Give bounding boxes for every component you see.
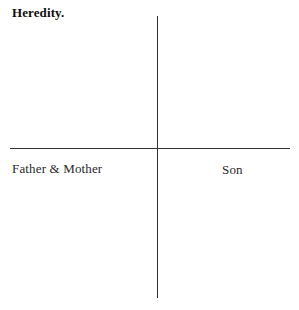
axis-label-father-and-mother: Father & Mother (12, 161, 102, 177)
plot-area (10, 16, 290, 298)
axis-label-son: Son (222, 162, 243, 178)
horizontal-axis-line (10, 148, 290, 149)
vertical-axis-line (157, 16, 158, 298)
page-title: Heredity. (12, 5, 64, 21)
heredity-figure: Heredity. Father & Mother Son (0, 0, 299, 310)
